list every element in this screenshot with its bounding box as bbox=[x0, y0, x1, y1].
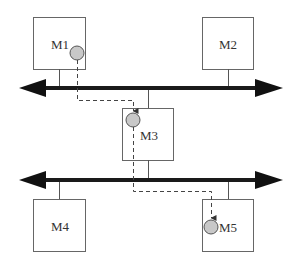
agent-icon bbox=[204, 220, 218, 234]
agent-icon bbox=[70, 46, 84, 60]
arrow-right-icon bbox=[255, 171, 283, 189]
node-m4: M4 bbox=[34, 200, 86, 252]
node-m1-label: M1 bbox=[51, 37, 69, 52]
node-m3: M3 bbox=[123, 109, 174, 161]
bus-bottom bbox=[19, 171, 283, 189]
agent-icon bbox=[126, 113, 140, 127]
network-diagram: M1 M2 M3 M4 M5 bbox=[0, 0, 299, 265]
arrow-left-icon bbox=[19, 171, 46, 189]
node-m3-label: M3 bbox=[140, 128, 158, 143]
node-m5-label: M5 bbox=[219, 220, 237, 235]
node-m2: M2 bbox=[203, 18, 254, 70]
arrow-left-icon bbox=[19, 79, 46, 97]
node-m2-label: M2 bbox=[219, 37, 237, 52]
arrow-right-icon bbox=[255, 79, 283, 97]
node-m4-label: M4 bbox=[51, 219, 70, 234]
bus-top bbox=[19, 79, 283, 97]
node-m5: M5 bbox=[203, 200, 254, 252]
